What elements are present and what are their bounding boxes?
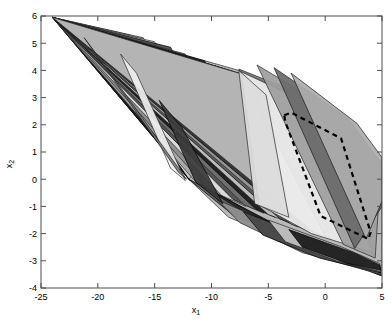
x-tick-label--20: -20 bbox=[91, 292, 104, 302]
y-tick-label-6: 6 bbox=[32, 11, 37, 21]
figure-container: -25-20-15-10-505-4-3-2-10123456 x1 x2 bbox=[0, 0, 392, 328]
y-tick-label-2: 2 bbox=[32, 120, 37, 130]
x-tick-label--25: -25 bbox=[34, 292, 47, 302]
y-tick-label--3: -3 bbox=[29, 256, 37, 266]
x-tick-label--5: -5 bbox=[264, 292, 272, 302]
x-axis-label-subscript: 1 bbox=[196, 309, 200, 316]
y-axis-label: x2 bbox=[4, 160, 15, 168]
y-tick-label-0: 0 bbox=[32, 175, 37, 185]
x-axis-label: x1 bbox=[192, 305, 200, 316]
y-tick-label-1: 1 bbox=[32, 147, 37, 157]
y-axis-label-subscript: 2 bbox=[8, 160, 15, 164]
x-tick-label-0: 0 bbox=[323, 292, 328, 302]
y-tick-label-5: 5 bbox=[32, 39, 37, 49]
y-tick-label--2: -2 bbox=[29, 229, 37, 239]
y-tick-label--1: -1 bbox=[29, 202, 37, 212]
y-tick-label-3: 3 bbox=[32, 93, 37, 103]
y-axis-label-main: x bbox=[4, 164, 14, 169]
y-tick-label--4: -4 bbox=[29, 283, 37, 293]
polygon-layer bbox=[52, 17, 382, 275]
x-tick-label--15: -15 bbox=[148, 292, 161, 302]
y-tick-label-4: 4 bbox=[32, 66, 37, 76]
x-tick-label--10: -10 bbox=[205, 292, 218, 302]
x-tick-label-5: 5 bbox=[379, 292, 384, 302]
plot-canvas: -25-20-15-10-505-4-3-2-10123456 bbox=[0, 0, 392, 328]
